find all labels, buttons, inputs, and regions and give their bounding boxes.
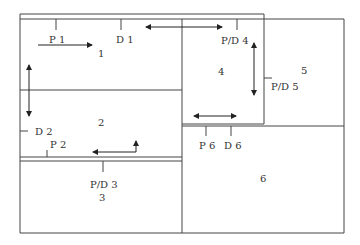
area-2-label: 2 bbox=[98, 118, 104, 128]
point-d6: D 6 bbox=[224, 141, 242, 151]
point-p2: P 2 bbox=[50, 140, 66, 150]
point-pd5: P/D 5 bbox=[271, 82, 299, 92]
area-1-label: 1 bbox=[98, 49, 104, 59]
area-6-label: 6 bbox=[260, 174, 266, 184]
point-d1: D 1 bbox=[116, 35, 134, 45]
area-4-label: 4 bbox=[218, 67, 224, 77]
area-3-label: 3 bbox=[99, 193, 105, 203]
point-pd4: P/D 4 bbox=[221, 36, 249, 46]
point-p6: P 6 bbox=[199, 141, 215, 151]
point-p1: P 1 bbox=[49, 35, 65, 45]
point-d2: D 2 bbox=[35, 127, 53, 137]
point-pd3: P/D 3 bbox=[90, 180, 118, 190]
area-5-label: 5 bbox=[301, 66, 307, 76]
